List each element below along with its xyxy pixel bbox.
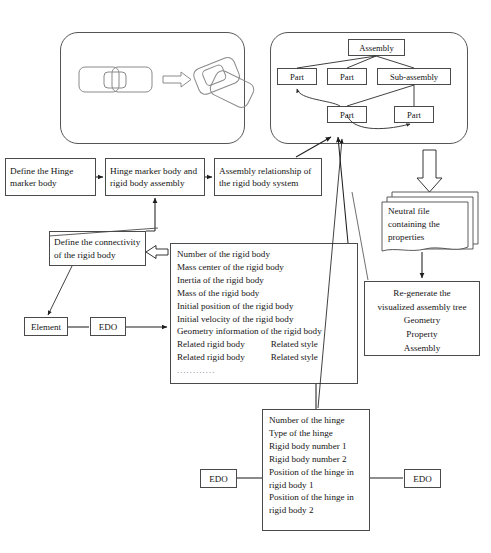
node-element[interactable]: Element [24,317,68,336]
node-line: rigid body assembly [110,177,200,189]
node-line: the rigid body system [219,177,317,189]
hinge-row: Position of the hinge in [269,466,363,479]
regen-line: Re-generate the [368,287,476,301]
illustration-panel [60,32,245,144]
property-ellipsis: ............ [177,366,215,375]
arrow-connectivity-to-element [48,266,72,315]
hinge-row: Type of the hinge [269,427,363,440]
node-edo-hinge-right[interactable]: EDO [404,469,441,488]
regen-line: Assembly [368,342,476,356]
property-row: Initial velocity of the rigid body [177,313,351,326]
node-hinge-marker-rigid-body-assembly[interactable]: Hinge marker body and rigid body assembl… [105,158,205,196]
block-arrow-properties-to-connectivity [146,246,168,259]
node-line: of the rigid body [54,249,141,261]
node-line: Hinge marker body and [110,165,200,177]
node-define-connectivity[interactable]: Define the connectivity of the rigid bod… [49,231,146,266]
panel-rigid-body-properties[interactable]: Number of the rigid body Mass center of … [170,243,358,384]
panel-hinge-properties[interactable]: Number of the hinge Type of the hinge Ri… [262,409,370,531]
node-assembly-relationship[interactable]: Assembly relationship of the rigid body … [214,158,322,196]
node-line: Define the Hinge [10,165,91,177]
regen-line: Geometry [368,314,476,328]
hinge-row: rigid body 2 [269,504,363,517]
property-row: Number of the rigid body [177,248,351,261]
property-row: Initial position of the rigid body [177,300,351,313]
node-line: Assembly relationship of [219,165,317,177]
diagram-canvas: Assembly Part Part Sub-assembly Part Par… [0,0,491,553]
neutral-file-label: Neutral file containing the properties [388,205,466,245]
node-define-hinge-marker-body[interactable]: Define the Hinge marker body [5,158,96,196]
arrow-rigid-properties-to-tree [338,137,348,243]
property-row: Mass center of the rigid body [177,261,351,274]
hinge-row: Number of the hinge [269,414,363,427]
property-row: Related rigid bodyRelated style [177,351,351,364]
tree-node-assembly[interactable]: Assembly [348,39,405,56]
property-row: Geometry information of the rigid body [177,325,351,338]
node-regenerate-assembly-tree[interactable]: Re-generate the visualized assembly tree… [364,281,480,356]
block-arrow-tree-to-neutral-file [417,150,442,192]
tree-node-sub-assembly[interactable]: Sub-assembly [377,68,451,85]
node-line: Define the connectivity [54,236,141,248]
regen-line: Property [368,328,476,342]
regen-line: visualized assembly tree [368,301,476,315]
node-edo-rigid-body[interactable]: EDO [90,317,126,336]
tree-node-part-4[interactable]: Part [394,106,434,123]
hinge-row: rigid body 1 [269,479,363,492]
tree-node-part-2[interactable]: Part [327,68,367,85]
neutral-file-line: containing the [388,218,466,231]
node-edo-hinge-left[interactable]: EDO [200,469,237,488]
neutral-file-line: Neutral file [388,205,466,218]
hinge-row: Position of the hinge in [269,491,363,504]
property-row: Inertia of the rigid body [177,274,351,287]
hinge-row: Rigid body number 2 [269,453,363,466]
neutral-file-line: properties [388,231,466,244]
property-row: Related rigid bodyRelated style [177,338,351,351]
tree-node-part-3[interactable]: Part [327,106,367,123]
property-row: Mass of the rigid body [177,287,351,300]
hinge-row: Rigid body number 1 [269,440,363,453]
node-line: marker body [10,177,91,189]
tree-node-part-1[interactable]: Part [277,68,317,85]
